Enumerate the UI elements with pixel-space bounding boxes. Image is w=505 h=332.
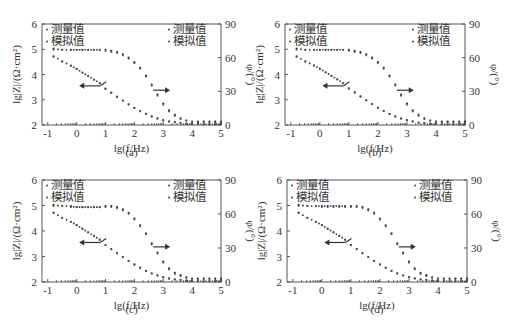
y-left-tick-label: 6 [275,18,281,30]
data-point-simulated [128,213,130,215]
arrowhead-left-icon [324,239,329,245]
data-point-simulated [134,107,136,109]
data-point-simulated [61,49,63,51]
legend-right-label: 模拟值 [173,34,207,47]
data-point-simulated [197,280,199,282]
data-point-simulated [321,206,323,208]
data-point-simulated [162,104,164,106]
data-point-measured [84,49,86,51]
data-point-simulated [458,124,460,126]
data-point-simulated [122,256,124,258]
figure: -1012345234560306090lg(f/Hz)lg|Z|/(Ω·cm²… [0,0,505,332]
data-point-simulated [110,51,112,53]
y-left-axis-title: lg|Z|/(Ω·cm²) [253,45,266,104]
data-point-simulated [313,65,315,67]
data-point-simulated [76,225,78,227]
data-point-simulated [99,206,101,208]
data-point-measured [335,205,337,207]
data-point-simulated [168,278,170,280]
data-point-simulated [426,279,428,281]
data-point-simulated [105,88,107,90]
data-point-simulated [400,118,402,120]
data-point-simulated [174,279,176,281]
data-point-measured [57,58,59,60]
data-point-simulated [87,232,89,234]
legend-marker [291,197,293,199]
data-point-simulated [435,123,437,125]
legend-marker [414,197,416,199]
data-point-measured [84,230,86,232]
data-point-simulated [315,221,317,223]
data-point-simulated [365,55,367,57]
data-point-simulated [327,228,329,230]
x-tick-label: 2 [132,284,138,296]
data-point-simulated [296,49,298,51]
data-point-measured [330,230,332,232]
data-point-simulated [400,95,402,97]
data-point-measured [73,49,75,51]
data-point-simulated [397,244,399,246]
legend-right-label: 测量值 [173,23,207,35]
data-point-simulated [443,280,445,282]
x-tick-label: 5 [218,284,224,296]
panel-caption: (a) [125,146,138,159]
legend-marker [168,185,170,187]
y-right-tick-label: 0 [471,276,477,288]
data-point-simulated [350,244,352,246]
data-point-measured [302,214,304,216]
x-tick-label: 5 [464,284,470,296]
data-point-simulated [429,123,431,125]
data-point-simulated [458,122,460,124]
data-point-simulated [418,115,420,117]
y-right-tick-label: 60 [225,52,237,64]
data-point-simulated [395,85,397,87]
data-point-simulated [354,51,356,53]
data-point-simulated [379,264,381,266]
data-point-measured [318,223,320,225]
data-point-measured [300,48,302,50]
data-point-simulated [93,79,95,81]
y-left-tick-label: 2 [32,119,38,131]
data-point-simulated [414,269,416,271]
data-point-simulated [105,206,107,208]
chart-panel-a: -1012345234560306090lg(f/Hz)lg|Z|/(Ω·cm²… [10,18,257,159]
y-left-tick-label: 2 [277,276,283,288]
data-point-simulated [203,279,205,281]
data-point-simulated [466,281,468,283]
legend-left-label: 模拟值 [51,190,85,203]
y-left-tick-label: 5 [32,200,38,212]
data-point-measured [90,233,92,235]
y-right-axis-title: φ/(°) [490,220,503,241]
data-point-simulated [408,262,410,264]
data-point-measured [84,73,86,75]
arrowhead-right-icon [409,87,414,93]
data-point-simulated [371,103,373,105]
data-point-simulated [360,96,362,98]
x-tick-label: 4 [435,284,441,296]
data-point-simulated [453,122,455,124]
data-point-simulated [116,96,118,98]
arrowhead-left-icon [79,83,84,89]
data-point-simulated [214,124,216,126]
data-point-simulated [437,280,439,282]
data-point-simulated [447,122,449,124]
data-point-measured [66,205,68,207]
y-left-tick-label: 6 [32,18,38,30]
data-point-simulated [99,239,101,241]
arrow-pointer-line [100,82,106,86]
chart-panel-b: -1012345234560306090lg(f/Hz)lg|Z|/(Ω·cm²… [253,18,501,159]
data-point-simulated [336,49,338,51]
data-point-simulated [336,79,338,81]
data-point-simulated [128,58,130,60]
data-point-simulated [122,55,124,57]
data-point-simulated [99,49,101,51]
data-point-simulated [325,49,327,51]
data-point-simulated [82,228,84,230]
data-point-simulated [209,279,211,281]
data-point-measured [66,63,68,65]
y-right-tick-label: 30 [225,85,237,97]
data-point-measured [90,206,92,208]
y-left-axis-title: lg|Z|/(Ω·cm²) [255,201,268,260]
data-point-simulated [214,281,216,283]
data-point-simulated [360,52,362,54]
